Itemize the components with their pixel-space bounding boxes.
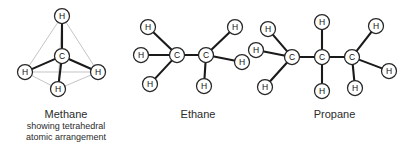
atom-label: H [386,66,392,76]
bond-C-H [353,64,355,82]
caption-ethane-title: Ethane [138,108,258,121]
caption-methane-line-2: atomic arrangement [0,132,132,143]
atom-label: H [59,11,65,21]
atom-h: H [143,77,158,92]
atom-h: H [18,65,33,80]
atom-c: C [199,48,214,63]
tetrahedron-edge [64,75,91,87]
atom-label: H [239,57,245,67]
caption-propane: Propane [262,108,407,121]
atom-label: H [201,81,207,91]
bond-C-H [31,59,56,70]
atom-label: H [319,86,325,96]
caption-propane-title: Propane [262,108,407,121]
atom-c: C [315,50,330,65]
tetrahedron-edge [31,75,52,86]
atom-label: H [138,50,144,60]
atom-h: H [51,82,66,97]
molecule-diagram-figure: CHHHH CCHHHHHH CCCHHHHHHHH Methane showi… [0,0,407,153]
bond-C-H [153,32,172,51]
atom-h: H [369,19,384,34]
atom-label: C [203,50,209,60]
bond-C-H [263,51,286,55]
atom-label: H [22,67,28,77]
bond-C-H [358,59,382,68]
atom-c: C [345,50,360,65]
caption-ethane: Ethane [138,108,258,121]
atom-label: C [319,52,325,62]
bond-C-H [213,56,236,60]
atom-h: H [141,20,156,35]
atom-c: C [285,50,300,65]
atom-label: C [349,52,355,62]
molecule-methane: CHHHH [18,9,106,97]
atom-label: C [59,51,65,61]
atom-h: H [91,65,106,80]
atom-label: H [352,83,358,93]
atom-c: C [55,49,70,64]
atom-label: H [232,22,238,32]
atom-h: H [348,81,363,96]
bond-C-H [211,32,230,51]
atom-label: H [265,24,271,34]
atom-label: C [174,50,180,60]
atom-label: H [319,17,325,27]
molecule-propane: CCCHHHHHHHH [249,15,397,99]
caption-methane: Methane showing tetrahedral atomic arran… [0,108,132,142]
atom-label: H [147,79,153,89]
bond-C-H [204,62,205,80]
atom-h: H [134,48,149,63]
atom-h: H [261,22,276,37]
bond-C-H [155,60,173,79]
caption-methane-title: Methane [0,108,132,121]
atom-h: H [315,15,330,30]
caption-methane-line-1: showing tetrahedral [0,121,132,132]
atom-label: H [253,45,259,55]
atom-h: H [197,79,212,94]
atom-c: C [170,48,185,63]
atom-h: H [315,84,330,99]
atom-h: H [258,80,273,95]
bond-C-H [272,34,287,52]
atom-h: H [382,64,397,79]
bond-C-H [68,59,92,70]
atom-label: C [289,52,295,62]
atom-h: H [55,9,70,24]
atom-label: H [95,67,101,77]
atom-label: H [262,82,268,92]
atom-h: H [249,43,264,58]
bond-C-H [356,31,372,51]
atom-label: H [373,21,379,31]
atom-h: H [228,20,243,35]
bond-C-H [269,62,287,82]
atom-label: H [145,22,151,32]
atom-label: H [55,84,61,94]
molecule-ethane: CCHHHHHH [134,20,250,94]
atom-h: H [235,55,250,70]
